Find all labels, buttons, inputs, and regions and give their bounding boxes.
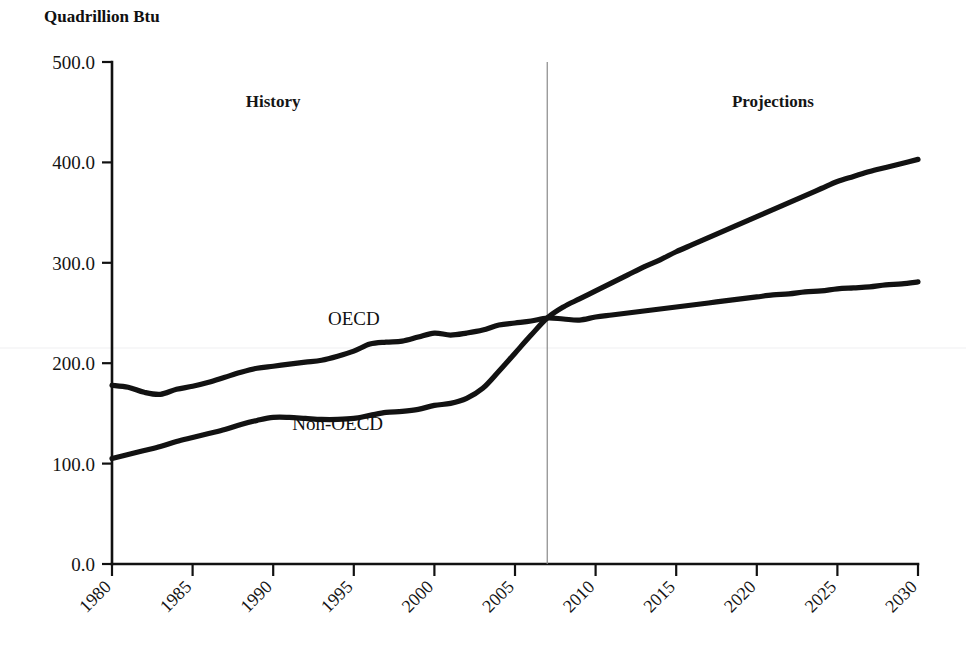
oecd-series-label: OECD: [328, 308, 380, 329]
projections-label: Projections: [732, 92, 814, 111]
chart-units-title: Quadrillion Btu: [44, 7, 160, 26]
y-tick-label: 400.0: [52, 152, 95, 173]
y-tick-label: 300.0: [52, 253, 95, 274]
y-tick-label: 0.0: [71, 554, 95, 575]
y-tick-label: 500.0: [52, 52, 95, 73]
y-tick-label: 200.0: [52, 353, 95, 374]
history-label: History: [246, 92, 301, 111]
energy-consumption-chart: Quadrillion Btu 0.0100.0200.0300.0400.05…: [0, 0, 966, 659]
non-oecd-series-label: Non-OECD: [292, 413, 383, 434]
y-tick-label: 100.0: [52, 454, 95, 475]
